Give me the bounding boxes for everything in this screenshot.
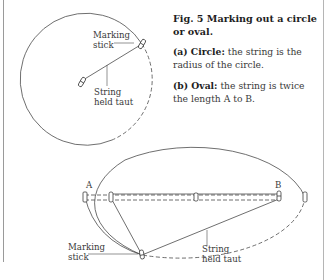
stick-icon	[109, 192, 113, 202]
stick-icon-a	[83, 192, 87, 202]
oval-string-left	[111, 198, 142, 255]
stick-icon-b	[277, 191, 281, 201]
stick-icon	[194, 193, 198, 201]
oval-string-label: String held taut	[202, 244, 241, 264]
figure-caption: Fig. 5 Marking out a circle or oval. (a)…	[173, 12, 321, 114]
stick-icon	[78, 77, 86, 88]
caption-oval: (b) Oval: the string is twice the length…	[173, 80, 321, 105]
caption-circle: (a) Circle: the string is the radius of …	[173, 46, 321, 71]
figure-title: Fig. 5 Marking out a circle or oval.	[173, 12, 321, 38]
circle-marking-stick-label: Marking stick	[93, 30, 130, 50]
point-a-label: A	[86, 180, 92, 190]
circle-string-label: String held taut	[94, 87, 133, 107]
point-b-label: B	[275, 180, 281, 190]
oval-marking-stick-label: Marking stick	[68, 242, 105, 262]
stick-icon	[303, 192, 307, 202]
stick-icon	[139, 250, 145, 260]
